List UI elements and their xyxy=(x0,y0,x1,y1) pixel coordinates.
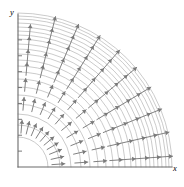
field-vector-head xyxy=(132,157,136,162)
x-axis-label: x xyxy=(173,163,177,173)
field-vector-head xyxy=(60,155,64,160)
equipotential-arc xyxy=(18,35,150,167)
field-vector-head xyxy=(82,150,86,155)
field-vector-head xyxy=(32,99,37,103)
field-vector-head xyxy=(49,28,54,32)
field-vector-head xyxy=(84,160,88,165)
field-vector-head xyxy=(28,25,33,29)
y-axis-label: y xyxy=(10,7,14,17)
vector-group xyxy=(19,17,172,167)
field-vector-head xyxy=(19,120,24,124)
radial-field-plot xyxy=(0,0,184,187)
equipotential-arc xyxy=(18,60,125,167)
field-vector-head xyxy=(24,62,29,66)
equipotential-arc xyxy=(18,72,113,167)
field-vector-head xyxy=(46,40,51,44)
field-vector-head xyxy=(153,133,157,138)
field-vector-head xyxy=(119,158,123,163)
equipotential-arc xyxy=(18,104,81,167)
equipotential-arc xyxy=(18,114,71,167)
field-vector-head xyxy=(142,136,146,141)
field-vector-head xyxy=(26,121,31,125)
field-vector-head xyxy=(21,97,26,101)
equipotential-arc xyxy=(18,66,119,167)
equipotential-arc xyxy=(18,31,154,167)
equipotential-arc xyxy=(18,137,48,167)
field-vector-head xyxy=(61,162,65,167)
equipotential-arc xyxy=(18,95,90,167)
field-vector-head xyxy=(26,49,31,53)
radial-field-figure: x y xyxy=(0,0,184,187)
field-vector-head xyxy=(129,139,133,144)
field-vector-head xyxy=(43,53,48,57)
equipotential-arc xyxy=(18,23,162,167)
